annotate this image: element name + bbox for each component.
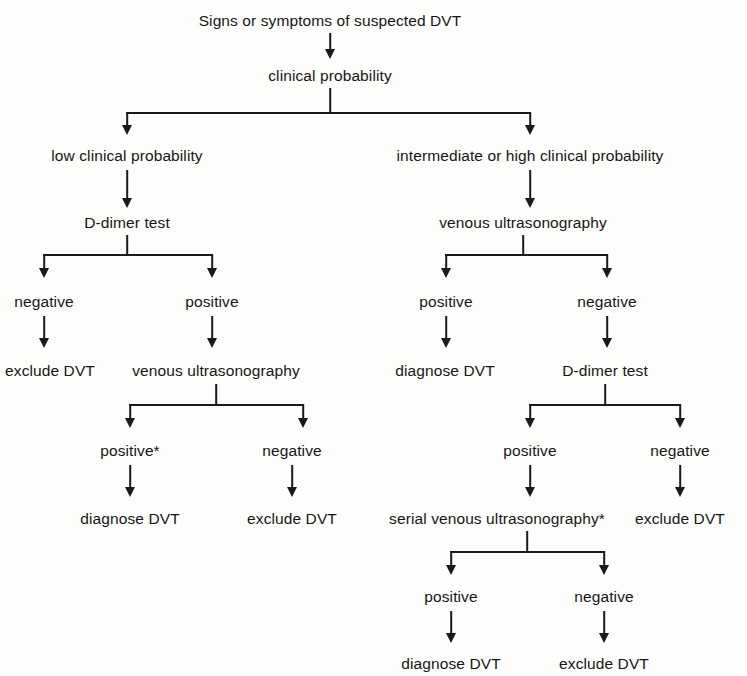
- node-right-serial-us: serial venous ultrasonography*: [389, 511, 605, 527]
- node-left-us: venous ultrasonography: [132, 363, 300, 379]
- node-right-ddimer: D-dimer test: [562, 363, 648, 379]
- connector-left-us-bus: [129, 404, 304, 406]
- arrowhead-to-low-probability: [122, 125, 132, 135]
- connector-right-us-bus: [445, 254, 608, 256]
- connector-right-serial-positive-to-diagnose: [450, 611, 452, 635]
- connector-right-ddimer-bus: [529, 404, 681, 406]
- node-left-exclude-2: exclude DVT: [247, 511, 337, 527]
- arrowhead-to-right-serial-positive: [446, 565, 456, 575]
- connector-left-us-negative-to-exclude: [291, 465, 293, 489]
- arrowhead-to-right-ddimer-negative: [675, 418, 685, 428]
- node-right-us-negative: negative: [577, 294, 636, 310]
- arrowhead-right-serial-positive-to-diagnose: [446, 633, 456, 643]
- connector-left-ddimer-stem: [126, 235, 128, 255]
- arrowhead-low-probability-to-ddimer: [122, 198, 132, 208]
- node-left-diagnose: diagnose DVT: [80, 511, 179, 527]
- arrowhead-to-right-us-negative: [602, 268, 612, 278]
- arrowhead-left-negative-to-exclude: [39, 338, 49, 348]
- flowchart-canvas: Signs or symptoms of suspected DVT clini…: [0, 0, 747, 676]
- arrowhead-to-left-ddimer-positive: [207, 268, 217, 278]
- node-left-exclude-1: exclude DVT: [5, 363, 95, 379]
- connector-right-ddimer-negative-to-exclude: [679, 465, 681, 489]
- connector-left-positive-to-us: [211, 316, 213, 340]
- arrowhead-high-probability-to-us: [525, 198, 535, 208]
- connector-clinical-probability-stem: [329, 88, 331, 113]
- arrowhead-to-right-us-positive: [441, 268, 451, 278]
- node-left-ddimer: D-dimer test: [84, 215, 170, 231]
- connector-right-us-positive-to-diagnose: [445, 316, 447, 340]
- node-clinical-probability: clinical probability: [268, 68, 391, 84]
- connector-right-serial-us-bus: [450, 551, 605, 553]
- node-root: Signs or symptoms of suspected DVT: [199, 13, 462, 29]
- arrowhead-to-left-us-negative: [298, 418, 308, 428]
- connector-right-ddimer-stem: [604, 384, 606, 405]
- arrowhead-right-ddimer-positive-to-serial-us: [525, 487, 535, 497]
- node-right-serial-positive: positive: [424, 589, 477, 605]
- connector-right-us-stem: [522, 235, 524, 255]
- node-left-ddimer-positive: positive: [185, 294, 238, 310]
- node-low-probability: low clinical probability: [51, 148, 202, 164]
- connector-clinical-probability-bus: [126, 112, 531, 114]
- connector-right-us-negative-to-ddimer: [606, 316, 608, 340]
- connector-left-us-positive-to-diagnose: [129, 465, 131, 489]
- arrowhead-right-us-negative-to-ddimer: [602, 338, 612, 348]
- arrowhead-left-us-positive-to-diagnose: [125, 487, 135, 497]
- connector-left-us-stem: [215, 384, 217, 405]
- arrowhead-left-us-negative-to-exclude: [287, 487, 297, 497]
- connector-right-serial-us-stem: [526, 531, 528, 552]
- node-right-exclude-2: exclude DVT: [559, 656, 649, 672]
- arrowhead-right-us-positive-to-diagnose: [441, 338, 451, 348]
- connector-left-negative-to-exclude: [43, 316, 45, 340]
- node-high-probability: intermediate or high clinical probabilit…: [397, 148, 664, 164]
- node-right-ddimer-negative: negative: [650, 443, 709, 459]
- arrowhead-right-ddimer-negative-to-exclude: [675, 487, 685, 497]
- node-right-us-positive: positive: [419, 294, 472, 310]
- connector-right-serial-negative-to-exclude: [603, 611, 605, 635]
- connector-high-probability-to-us: [529, 170, 531, 200]
- arrowhead-left-positive-to-us: [207, 338, 217, 348]
- arrowhead-to-left-ddimer-negative: [39, 268, 49, 278]
- node-right-exclude-1: exclude DVT: [635, 511, 725, 527]
- arrowhead-to-right-ddimer-positive: [525, 418, 535, 428]
- connector-right-ddimer-positive-to-serial-us: [529, 465, 531, 489]
- node-right-us: venous ultrasonography: [439, 215, 607, 231]
- arrowhead-to-left-us-positive: [125, 418, 135, 428]
- node-right-ddimer-positive: positive: [503, 443, 556, 459]
- arrowhead-to-right-serial-negative: [599, 565, 609, 575]
- arrowhead-to-high-probability: [525, 125, 535, 135]
- node-right-diagnose-1: diagnose DVT: [395, 363, 494, 379]
- node-right-serial-negative: negative: [574, 589, 633, 605]
- node-left-us-negative: negative: [262, 443, 321, 459]
- connector-left-ddimer-bus: [43, 254, 213, 256]
- arrowhead-right-serial-negative-to-exclude: [599, 633, 609, 643]
- node-left-us-positive: positive*: [100, 443, 160, 459]
- connector-low-probability-to-ddimer: [126, 170, 128, 200]
- node-left-ddimer-negative: negative: [14, 294, 73, 310]
- arrowhead-root-to-clinical-probability: [325, 49, 335, 59]
- node-right-diagnose-2: diagnose DVT: [401, 656, 500, 672]
